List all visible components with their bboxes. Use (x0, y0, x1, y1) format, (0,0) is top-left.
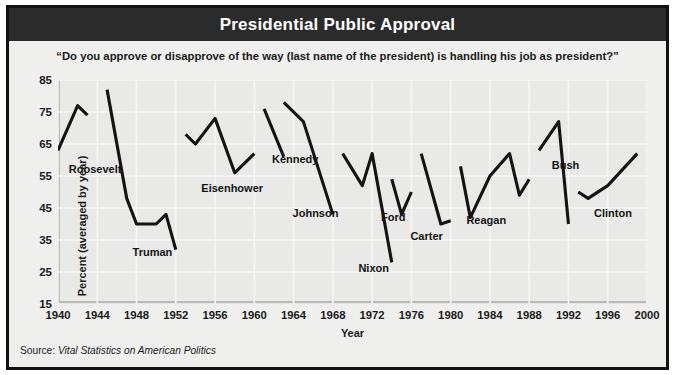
series-label-johnson: Johnson (293, 207, 339, 219)
y-tick-label: 55 (39, 170, 52, 182)
source-work-title: Vital Statistics on American Politics (58, 345, 216, 356)
x-axis-tick-labels: 1940194419481952195619601964196819721976… (58, 309, 647, 325)
series-line (264, 109, 284, 157)
y-tick-label: 75 (39, 106, 52, 118)
x-tick-label: 1984 (477, 309, 502, 321)
chart-subtitle: “Do you approve or disapprove of the way… (12, 50, 663, 62)
x-tick-label: 1968 (320, 309, 345, 321)
x-tick-label: 1988 (517, 309, 542, 321)
series-label-ford: Ford (381, 211, 405, 223)
y-tick-label: 25 (39, 266, 52, 278)
x-tick-label: 1944 (85, 309, 110, 321)
plot-wrapper: Percent (averaged by year) RooseveltTrum… (58, 80, 647, 304)
series-line (186, 118, 255, 172)
x-tick-label: 2000 (634, 309, 659, 321)
x-tick-label: 1948 (124, 309, 149, 321)
y-tick-label: 45 (39, 202, 52, 214)
source-prefix: Source: (20, 345, 58, 356)
x-tick-label: 1980 (438, 309, 463, 321)
y-tick-label: 85 (39, 74, 52, 86)
series-label-carter: Carter (410, 230, 442, 242)
series-label-bush: Bush (552, 159, 580, 171)
series-line (421, 154, 450, 224)
chart-title-banner: Presidential Public Approval (9, 8, 666, 41)
y-axis-tick-labels: 8575655545352515 (22, 80, 52, 304)
series-line (392, 179, 412, 214)
x-tick-label: 1992 (556, 309, 581, 321)
y-axis-title: Percent (averaged by year) (76, 126, 88, 326)
y-tick-label: 65 (39, 138, 52, 150)
series-label-roosevelt: Roosevelt (69, 163, 122, 175)
source-note: Source: Vital Statistics on American Pol… (20, 345, 216, 356)
x-tick-label: 1972 (360, 309, 385, 321)
series-label-nixon: Nixon (358, 262, 389, 274)
series-label-truman: Truman (133, 246, 173, 258)
x-tick-label: 1996 (595, 309, 620, 321)
x-tick-label: 1956 (203, 309, 228, 321)
x-tick-label: 1976 (399, 309, 424, 321)
series-label-reagan: Reagan (466, 214, 506, 226)
x-tick-label: 1964 (281, 309, 306, 321)
series-label-eisenhower: Eisenhower (201, 182, 263, 194)
x-tick-label: 1952 (163, 309, 188, 321)
x-axis-title: Year (58, 327, 647, 339)
page-title: Presidential Public Approval (220, 15, 455, 35)
chart-figure: Presidential Public Approval “Do you app… (0, 0, 675, 375)
series-label-kennedy: Kennedy (272, 153, 318, 165)
x-tick-label: 1960 (242, 309, 267, 321)
chart-lines (58, 80, 647, 304)
y-tick-label: 35 (39, 234, 52, 246)
series-label-clinton: Clinton (594, 207, 632, 219)
x-tick-label: 1940 (45, 309, 70, 321)
